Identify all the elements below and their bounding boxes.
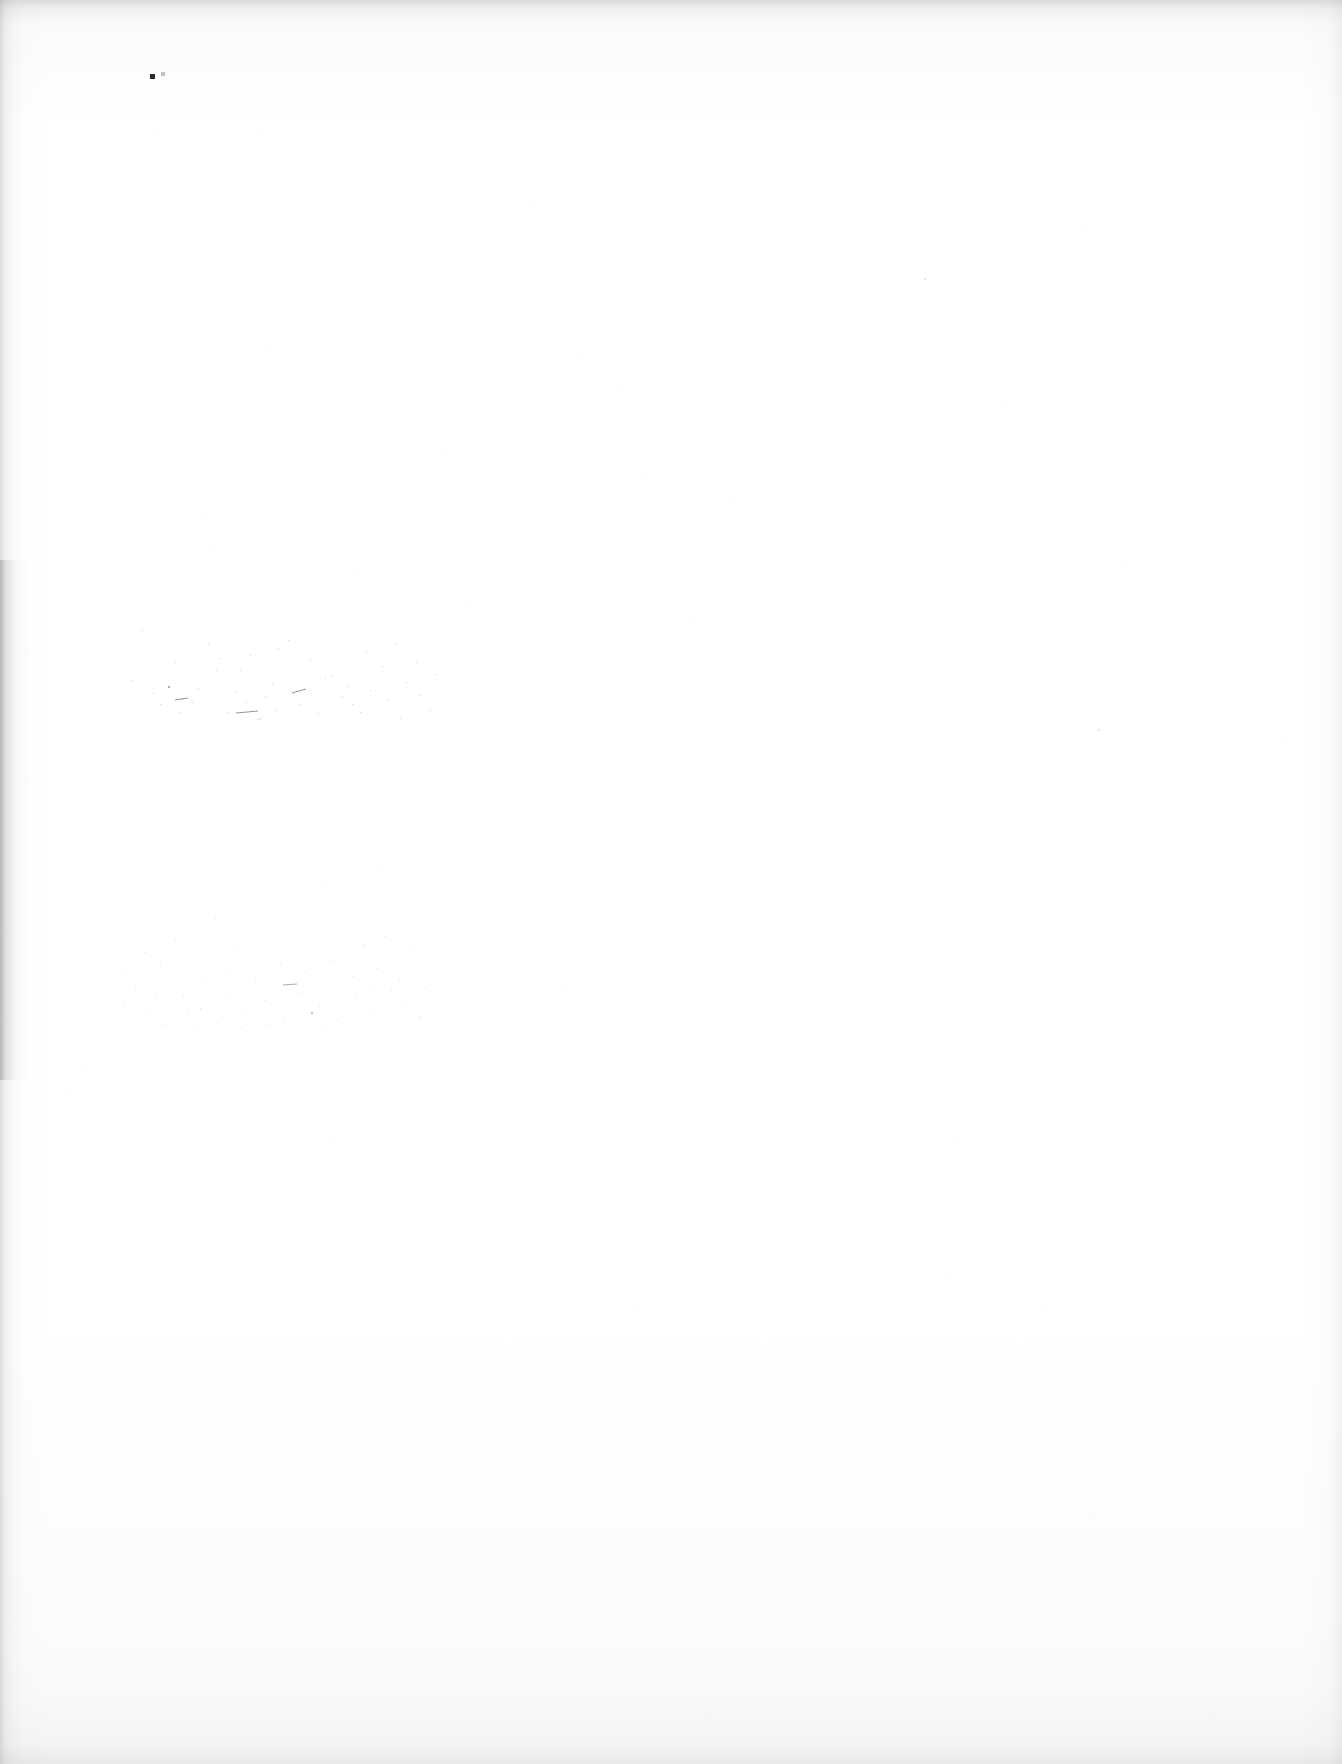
scan-edge-bottom — [0, 1694, 1342, 1764]
scan-edge-right — [1302, 0, 1342, 1764]
scanned-page — [0, 0, 1342, 1764]
scan-edge-top — [0, 0, 1342, 34]
page-content-area — [46, 34, 1302, 1694]
scan-gutter-shadow — [0, 560, 30, 1080]
